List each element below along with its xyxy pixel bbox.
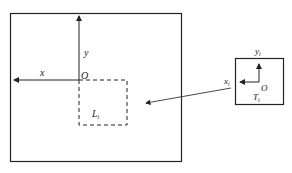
main-frame: y x O Li <box>11 14 182 162</box>
tile-x-axis-label: xi <box>223 76 230 87</box>
y-axis-label: y <box>83 47 89 58</box>
tile-origin-label: O <box>261 83 268 93</box>
origin-label: O <box>81 70 88 81</box>
tile-y-axis-label: yi <box>254 46 261 57</box>
coordinate-mapping-diagram: y x O Li yi xi O Ti <box>0 0 292 173</box>
x-axis-label: x <box>39 67 45 78</box>
tile-frame: yi xi O Ti <box>223 46 284 105</box>
